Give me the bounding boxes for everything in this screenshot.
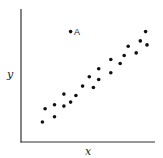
point-annotation-label: A (74, 27, 80, 37)
data-point (88, 75, 92, 79)
data-point (53, 103, 57, 107)
x-axis-label: x (85, 145, 91, 158)
data-point (41, 120, 45, 124)
data-point (109, 71, 113, 75)
data-point (134, 51, 138, 55)
data-point (145, 43, 149, 47)
annotations: A (74, 27, 80, 37)
data-point (144, 30, 148, 34)
data-point (62, 104, 66, 108)
data-point (139, 39, 143, 43)
data-point (92, 86, 96, 90)
data-point (122, 54, 126, 58)
data-point (81, 84, 85, 88)
y-axis-label: y (7, 68, 13, 81)
data-point (53, 115, 57, 119)
data-point (69, 100, 73, 104)
scatter-plot: A (0, 0, 163, 158)
outlier-point (69, 30, 73, 34)
data-point (62, 92, 66, 96)
data-point (118, 62, 122, 66)
data-point (97, 67, 101, 71)
data-point (43, 107, 47, 111)
data-point (109, 58, 113, 62)
data-point (97, 78, 101, 82)
data-point (126, 44, 130, 48)
data-points (41, 30, 149, 124)
data-point (74, 94, 78, 98)
